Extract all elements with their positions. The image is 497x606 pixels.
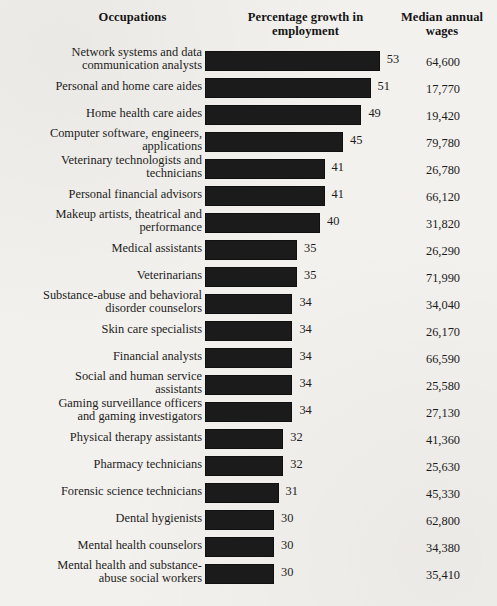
growth-bar	[205, 132, 343, 152]
median-wage-value: 26,290	[398, 245, 488, 258]
row-occupation-label: Financial analysts	[2, 350, 202, 363]
growth-bar	[205, 510, 274, 530]
bar-value-label: 34	[299, 350, 311, 363]
row-occupation-label: Mental health and substance- abuse socia…	[2, 559, 202, 586]
growth-bar	[205, 564, 274, 584]
median-wage-value: 64,600	[398, 56, 488, 69]
chart-row: Personal financial advisors4166,120	[0, 183, 497, 210]
bar-value-label: 34	[299, 377, 311, 390]
growth-bar	[205, 267, 297, 287]
bar-value-label: 34	[299, 323, 311, 336]
median-wage-value: 26,780	[398, 164, 488, 177]
row-occupation-label: Home health care aides	[2, 107, 202, 120]
chart-row: Home health care aides4919,420	[0, 102, 497, 129]
row-occupation-label: Dental hygienists	[2, 512, 202, 525]
bar-value-label: 35	[304, 242, 316, 255]
growth-bar	[205, 51, 380, 71]
row-occupation-label: Social and human service assistants	[2, 370, 202, 397]
row-occupation-label: Veterinary technologists and technicians	[2, 154, 202, 181]
median-wage-value: 35,410	[398, 569, 488, 582]
median-wage-value: 25,630	[398, 461, 488, 474]
growth-bar	[205, 402, 292, 422]
growth-bar	[205, 240, 297, 260]
growth-bar	[205, 105, 361, 125]
median-wage-value: 17,770	[398, 83, 488, 96]
growth-bar	[205, 537, 274, 557]
median-wage-value: 26,170	[398, 326, 488, 339]
chart-row: Veterinary technologists and technicians…	[0, 156, 497, 183]
median-wage-value: 34,040	[398, 299, 488, 312]
bar-value-label: 34	[299, 404, 311, 417]
chart-row: Pharmacy technicians3225,630	[0, 453, 497, 480]
row-occupation-label: Makeup artists, theatrical and performan…	[2, 208, 202, 235]
growth-bar	[205, 375, 292, 395]
row-occupation-label: Skin care specialists	[2, 323, 202, 336]
median-wage-value: 45,330	[398, 488, 488, 501]
column-header-occupations: Occupations	[60, 10, 205, 24]
column-header-percentage-growth: Percentage growth in employment	[218, 10, 393, 38]
bar-value-label: 40	[327, 215, 339, 228]
growth-bar	[205, 429, 283, 449]
bar-value-label: 30	[281, 566, 293, 579]
row-occupation-label: Personal and home care aides	[2, 80, 202, 93]
chart-row: Veterinarians3571,990	[0, 264, 497, 291]
chart-row: Social and human service assistants3425,…	[0, 372, 497, 399]
growth-bar	[205, 456, 283, 476]
row-occupation-label: Mental health counselors	[2, 539, 202, 552]
median-wage-value: 27,130	[398, 407, 488, 420]
chart-row: Skin care specialists3426,170	[0, 318, 497, 345]
growth-bar	[205, 213, 320, 233]
chart-row: Medical assistants3526,290	[0, 237, 497, 264]
growth-bar	[205, 294, 292, 314]
chart-row: Physical therapy assistants3241,360	[0, 426, 497, 453]
bar-chart-figure: Occupations Percentage growth in employm…	[0, 0, 497, 606]
median-wage-value: 71,990	[398, 272, 488, 285]
chart-row: Mental health counselors3034,380	[0, 534, 497, 561]
bar-value-label: 32	[290, 458, 302, 471]
median-wage-value: 19,420	[398, 110, 488, 123]
median-wage-value: 25,580	[398, 380, 488, 393]
chart-row: Gaming surveillance officers and gaming …	[0, 399, 497, 426]
chart-row: Mental health and substance- abuse socia…	[0, 561, 497, 588]
bar-value-label: 30	[281, 539, 293, 552]
row-occupation-label: Network systems and data communication a…	[2, 46, 202, 73]
bar-value-label: 34	[299, 296, 311, 309]
median-wage-value: 31,820	[398, 218, 488, 231]
median-wage-value: 34,380	[398, 542, 488, 555]
row-occupation-label: Physical therapy assistants	[2, 431, 202, 444]
row-occupation-label: Substance-abuse and behavioral disorder …	[2, 289, 202, 316]
growth-bar	[205, 78, 371, 98]
bar-value-label: 35	[304, 269, 316, 282]
median-wage-value: 79,780	[398, 137, 488, 150]
row-occupation-label: Personal financial advisors	[2, 188, 202, 201]
bar-value-label: 30	[281, 512, 293, 525]
growth-bar	[205, 159, 325, 179]
chart-row: Computer software, engineers, applicatio…	[0, 129, 497, 156]
chart-row: Network systems and data communication a…	[0, 48, 497, 75]
row-occupation-label: Pharmacy technicians	[2, 458, 202, 471]
bar-value-label: 45	[350, 134, 362, 147]
chart-rows: Network systems and data communication a…	[0, 48, 497, 588]
row-occupation-label: Computer software, engineers, applicatio…	[2, 127, 202, 154]
bar-value-label: 32	[290, 431, 302, 444]
bar-value-label: 41	[332, 188, 344, 201]
row-occupation-label: Gaming surveillance officers and gaming …	[2, 397, 202, 424]
column-header-band: Occupations Percentage growth in employm…	[0, 0, 497, 48]
chart-row: Financial analysts3466,590	[0, 345, 497, 372]
chart-row: Dental hygienists3062,800	[0, 507, 497, 534]
chart-row: Forensic science technicians3145,330	[0, 480, 497, 507]
median-wage-value: 62,800	[398, 515, 488, 528]
growth-bar	[205, 483, 279, 503]
growth-bar	[205, 348, 292, 368]
row-occupation-label: Forensic science technicians	[2, 485, 202, 498]
row-occupation-label: Veterinarians	[2, 269, 202, 282]
chart-row: Makeup artists, theatrical and performan…	[0, 210, 497, 237]
column-header-median-annual-wages: Median annual wages	[390, 10, 494, 38]
growth-bar	[205, 321, 292, 341]
chart-row: Substance-abuse and behavioral disorder …	[0, 291, 497, 318]
chart-row: Personal and home care aides5117,770	[0, 75, 497, 102]
growth-bar	[205, 186, 325, 206]
median-wage-value: 66,120	[398, 191, 488, 204]
bar-value-label: 41	[332, 161, 344, 174]
row-occupation-label: Medical assistants	[2, 242, 202, 255]
